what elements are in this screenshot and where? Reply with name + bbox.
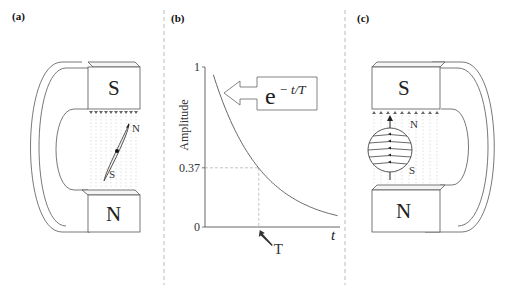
y-tick-label: 0.37 (179, 161, 200, 175)
south-pole-label-c: S (398, 76, 410, 100)
sphere-north-label: N (410, 118, 418, 130)
panel-a-label: (a) (12, 10, 25, 23)
proton-sphere (368, 115, 412, 180)
x-marker-label: T (274, 241, 283, 257)
panel-b: (b) 10.370tAmplitudeT e − t/T (171, 12, 340, 257)
needle-north-label: N (132, 122, 140, 134)
formula-callout: e − t/T (224, 77, 317, 110)
panel-c: (c) S N (357, 12, 494, 232)
compass-needle (104, 123, 129, 181)
panel-b-label: (b) (171, 12, 185, 25)
field-arrows-a (89, 111, 138, 114)
north-pole-label-a: N (106, 202, 121, 226)
field-arrows-c (372, 111, 439, 114)
figure: (a) S N (0, 0, 515, 292)
formula-base: e (265, 83, 276, 109)
south-pole-label-a: S (108, 76, 120, 100)
y-tick-label: 1 (194, 60, 200, 74)
horseshoe-magnet-a (31, 62, 141, 232)
y-tick-label: 0 (194, 220, 200, 234)
x-axis-label: t (331, 227, 336, 243)
pointer-arrow-icon (259, 230, 273, 246)
panel-a: (a) S N (12, 10, 140, 232)
needle-south-label: S (109, 168, 115, 180)
y-axis-label: Amplitude (177, 99, 191, 150)
formula-exponent: − t/T (279, 82, 306, 97)
north-pole-label-c: N (396, 199, 411, 223)
panel-c-label: (c) (357, 12, 370, 25)
sphere-south-label: S (409, 164, 415, 176)
